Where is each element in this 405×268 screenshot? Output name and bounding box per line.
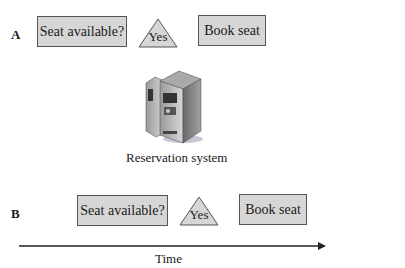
server-icon bbox=[143, 65, 209, 145]
scenario-a-decision-text: Yes bbox=[138, 29, 178, 45]
scenario-a-book-seat-box: Book seat bbox=[198, 15, 266, 46]
scenario-b-label: B bbox=[11, 206, 20, 222]
reservation-system-caption: Reservation system bbox=[126, 150, 227, 166]
scenario-b-book-seat-box: Book seat bbox=[239, 194, 307, 225]
scenario-a-decision-triangle: Yes bbox=[138, 18, 178, 48]
scenario-b-decision-text: Yes bbox=[179, 207, 219, 223]
scenario-b-seat-available-box: Seat available? bbox=[77, 195, 168, 226]
scenario-b-decision-triangle: Yes bbox=[179, 196, 219, 226]
scenario-a-label: A bbox=[11, 27, 20, 43]
time-axis-label: Time bbox=[155, 251, 182, 267]
scenario-a-seat-available-box: Seat available? bbox=[37, 16, 127, 47]
